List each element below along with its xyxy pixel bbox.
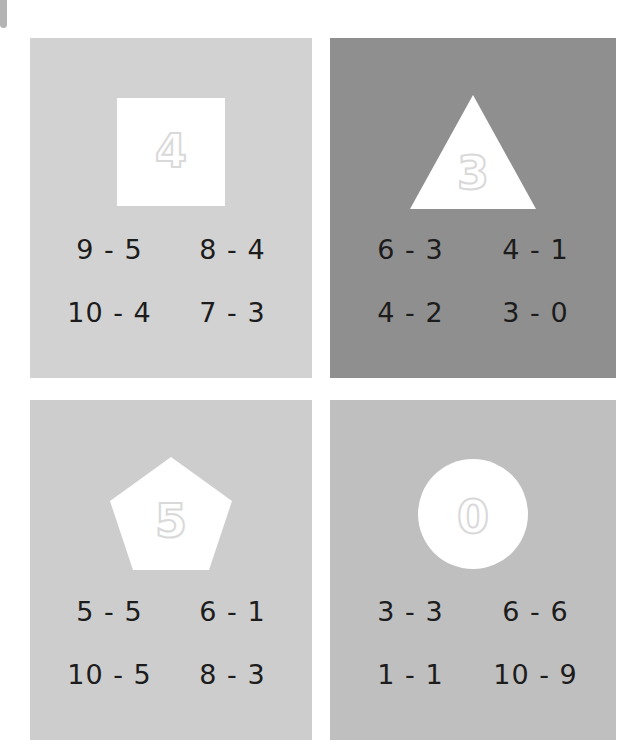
square-shape-icon [106,92,236,214]
shape-stage: 3 [330,38,616,228]
equation-item: 8 - 4 [171,234,294,265]
circle-shape-icon [408,454,538,576]
equation-grid: 5 - 5 6 - 1 10 - 5 8 - 3 [30,596,312,690]
shape-card-triangle[interactable]: 3 6 - 3 4 - 1 4 - 2 3 - 0 [330,38,616,378]
equation-grid: 3 - 3 6 - 6 1 - 1 10 - 9 [330,596,616,690]
equation-item: 6 - 3 [348,234,473,265]
shape-wrap: 4 [106,92,236,214]
shape-stage: 5 [30,400,312,590]
triangle-shape-icon [408,92,538,214]
shape-card-pentagon[interactable]: 5 5 - 5 6 - 1 10 - 5 8 - 3 [30,400,312,740]
pentagon-shape-icon [106,454,236,576]
shape-stage: 4 [30,38,312,228]
shape-stage: 0 [330,400,616,590]
equation-item: 4 - 1 [473,234,598,265]
equation-item: 10 - 9 [473,659,598,690]
equation-item: 4 - 2 [348,297,473,328]
shape-wrap: 5 [106,454,236,576]
equation-item: 9 - 5 [48,234,171,265]
equation-item: 3 - 3 [348,596,473,627]
equation-item: 10 - 4 [48,297,171,328]
shape-card-circle[interactable]: 0 3 - 3 6 - 6 1 - 1 10 - 9 [330,400,616,740]
equation-item: 6 - 1 [171,596,294,627]
equation-item: 5 - 5 [48,596,171,627]
equation-grid: 9 - 5 8 - 4 10 - 4 7 - 3 [30,234,312,328]
equation-item: 7 - 3 [171,297,294,328]
equation-item: 6 - 6 [473,596,598,627]
shape-wrap: 3 [408,92,538,214]
shape-wrap: 0 [408,454,538,576]
equation-item: 1 - 1 [348,659,473,690]
equation-item: 3 - 0 [473,297,598,328]
equation-item: 8 - 3 [171,659,294,690]
equation-item: 10 - 5 [48,659,171,690]
equation-grid: 6 - 3 4 - 1 4 - 2 3 - 0 [330,234,616,328]
shape-card-square[interactable]: 4 9 - 5 8 - 4 10 - 4 7 - 3 [30,38,312,378]
worksheet-board: 4 9 - 5 8 - 4 10 - 4 7 - 3 3 6 - 3 4 - 1… [0,0,644,756]
